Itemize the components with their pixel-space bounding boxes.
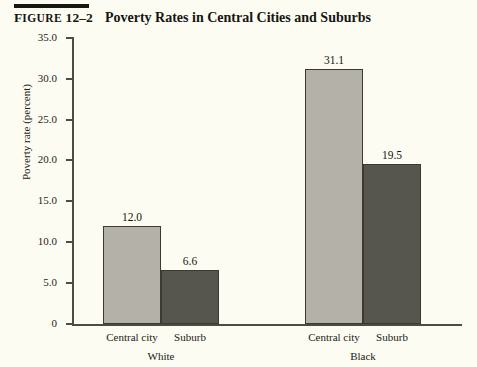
bar-black-central-city[interactable] [305, 69, 363, 324]
bar-value-black-suburb: 19.5 [382, 149, 402, 161]
y-tick-5: 5.0 [66, 282, 72, 284]
y-tick-label-20: 20.0 [38, 153, 57, 165]
y-tick-30: 30.0 [66, 78, 72, 80]
y-tick-25: 25.0 [66, 119, 72, 121]
group-label-white: White [148, 350, 175, 362]
y-tick-label-35: 35.0 [38, 31, 57, 43]
bar-value-white-suburb: 6.6 [183, 255, 197, 267]
bar-white-suburb[interactable] [161, 270, 219, 324]
group-label-black: Black [350, 350, 376, 362]
x-label-white-suburb: Suburb [174, 331, 206, 343]
y-tick-label-10: 10.0 [38, 235, 57, 247]
figure-header: FIGURE 12–2Poverty Rates in Central Citi… [14, 9, 371, 27]
x-label-white-central-city: Central city [106, 331, 158, 343]
bar-value-white-central-city: 12.0 [122, 211, 142, 223]
bar-value-black-central-city: 31.1 [324, 54, 344, 66]
x-label-black-central-city: Central city [308, 331, 360, 343]
y-tick-label-25: 25.0 [38, 113, 57, 125]
y-axis-title: Poverty rate (percent) [20, 84, 32, 180]
y-tick-0: 0 [66, 323, 72, 325]
y-tick-label-0: 0 [52, 317, 58, 329]
bar-white-central-city[interactable] [103, 226, 161, 324]
bar-black-suburb[interactable] [363, 164, 421, 324]
plot-area: 0 5.0 10.0 15.0 20.0 25.0 30.0 35.0 12.0… [72, 37, 462, 324]
y-tick-label-15: 15.0 [38, 194, 57, 206]
y-tick-label-5: 5.0 [43, 276, 57, 288]
figure-number: FIGURE 12–2 [14, 10, 93, 25]
y-axis-line [72, 37, 74, 324]
y-tick-label-30: 30.0 [38, 72, 57, 84]
y-tick-35: 35.0 [66, 37, 72, 39]
x-axis-line [72, 324, 462, 326]
y-tick-10: 10.0 [66, 241, 72, 243]
x-label-black-suburb: Suburb [376, 331, 408, 343]
y-tick-20: 20.0 [66, 159, 72, 161]
figure-page: FIGURE 12–2Poverty Rates in Central Citi… [0, 0, 477, 367]
figure-title: Poverty Rates in Central Cities and Subu… [105, 10, 371, 25]
y-tick-15: 15.0 [66, 200, 72, 202]
figure-rule [14, 4, 89, 8]
